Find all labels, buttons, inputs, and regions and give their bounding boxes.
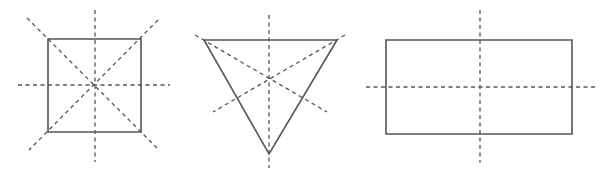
background [0,0,605,182]
symmetry-diagram [0,0,605,182]
